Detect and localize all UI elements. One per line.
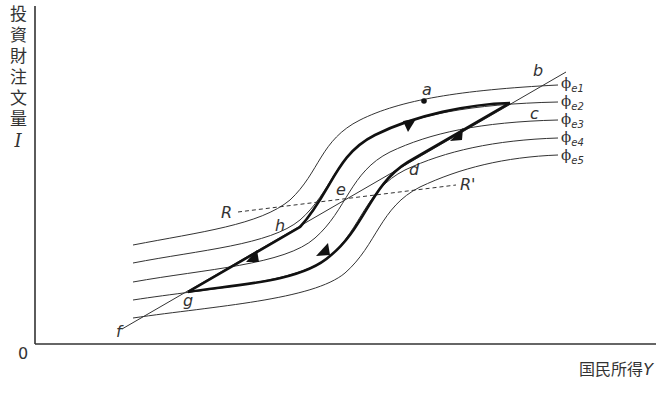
- phi-symbol: ϕ: [561, 74, 571, 92]
- phi-symbol: ϕ: [561, 110, 571, 128]
- x-axis-label: 国民所得Y: [579, 356, 653, 380]
- investment-cycle-diagram: 投 資 財 注 文 量 I 国民所得Y 0 ϕe1 ϕe2 ϕe3 ϕe4 ϕe…: [0, 0, 663, 396]
- point-label-b: b: [533, 61, 543, 80]
- y-axis-label: 投 資 財 注 文 量 I: [8, 4, 28, 151]
- diagram-canvas: [0, 0, 663, 396]
- arrow-icon-lower-curve: [316, 243, 330, 256]
- y-label-char: 文: [8, 88, 28, 109]
- x-axis-symbol: Y: [643, 360, 653, 379]
- point-label-c: c: [530, 104, 539, 123]
- point-label-e: e: [336, 180, 346, 199]
- y-label-char: 資: [8, 25, 28, 46]
- point-label-h: h: [275, 216, 285, 235]
- label-r: R: [221, 203, 232, 222]
- point-label-f: f: [116, 322, 122, 341]
- label-r-prime: R': [460, 175, 476, 194]
- phi-symbol: ϕ: [561, 92, 571, 110]
- y-label-char: 財: [8, 46, 28, 67]
- x-axis-label-text: 国民所得: [579, 360, 643, 379]
- phi-symbol: ϕ: [561, 128, 571, 146]
- curve-label-phi-e5: ϕe5: [561, 146, 584, 166]
- curve-phi-e3: [133, 120, 558, 282]
- y-label-char: 注: [8, 67, 28, 88]
- point-label-d: d: [409, 160, 419, 179]
- curve-phi-e1: [133, 85, 558, 245]
- arrow-icon-upper-curve: [403, 119, 416, 132]
- origin-label: 0: [18, 344, 28, 363]
- curve-subscript: e5: [571, 155, 584, 166]
- curve-label-phi-e4: ϕe4: [561, 128, 584, 148]
- y-axis-symbol: I: [8, 130, 28, 151]
- curve-label-phi-e1: ϕe1: [561, 74, 584, 94]
- point-label-a: a: [422, 80, 432, 99]
- y-label-char: 投: [8, 4, 28, 25]
- point-label-g: g: [183, 291, 193, 310]
- phi-curves: [133, 85, 558, 318]
- phi-symbol: ϕ: [561, 146, 571, 164]
- curve-label-phi-e2: ϕe2: [561, 92, 584, 112]
- curve-label-phi-e3: ϕe3: [561, 110, 584, 130]
- y-label-char: 量: [8, 109, 28, 130]
- point-a-marker: [421, 98, 427, 104]
